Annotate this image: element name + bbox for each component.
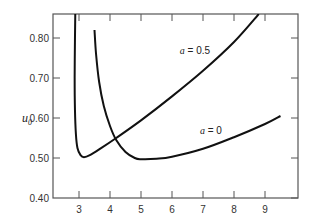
- y-tick-label: 0.50: [30, 153, 50, 164]
- x-tick-label: 5: [138, 204, 144, 215]
- series-label-1: a = 0: [200, 125, 222, 136]
- y-tick-label: 0.40: [30, 193, 50, 204]
- x-tick-label: 7: [200, 204, 206, 215]
- chart: 0.400.500.600.700.80 3456789 a = 0.5a = …: [0, 0, 310, 224]
- y-tick-label: 0.80: [30, 33, 50, 44]
- series-lines: [75, 14, 281, 159]
- y-tick-label: 0.70: [30, 73, 50, 84]
- x-tick-label: 3: [76, 204, 82, 215]
- x-axis: 3456789: [76, 14, 268, 215]
- x-tick-label: 9: [262, 204, 268, 215]
- x-tick-label: 6: [169, 204, 175, 215]
- series-label-0: a = 0.5: [180, 45, 211, 56]
- plot-frame: [53, 14, 298, 198]
- y-axis: 0.400.500.600.700.80: [30, 33, 298, 204]
- x-tick-label: 4: [107, 204, 113, 215]
- series-line-0: [75, 14, 259, 157]
- x-tick-label: 8: [231, 204, 237, 215]
- y-tick-label: 0.60: [30, 113, 50, 124]
